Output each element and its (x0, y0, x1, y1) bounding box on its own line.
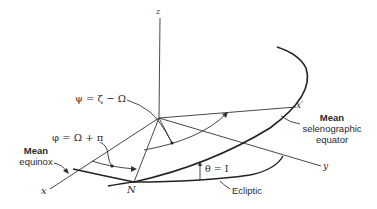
ecliptic-leader (220, 181, 230, 189)
psi-label: ψ = ζ − Ω (75, 94, 126, 104)
phi-arrowhead (131, 166, 137, 172)
mean-equinox-line-1: Mean (14, 145, 58, 156)
mean-equinox-arrowhead (63, 168, 69, 174)
z-axis (159, 18, 160, 118)
y-axis-label: y (323, 162, 328, 171)
phi-dot (110, 164, 113, 167)
x-prime-axis-label: x′ (296, 101, 303, 110)
mean-selenographic-equator-callout: Mean selenographic equator (296, 112, 368, 145)
mean-equinox-line-2: equinox (14, 156, 58, 167)
phi-arc (92, 161, 135, 169)
equator-line-3: equator (296, 134, 368, 145)
psi-leader (127, 100, 172, 143)
phi-leader (100, 142, 112, 166)
x-axis (50, 118, 159, 189)
equator-line-2: selenographic (296, 123, 368, 134)
ecliptic-curve (108, 156, 283, 186)
x-axis-label: x (41, 186, 47, 196)
mean-equinox-callout: Mean equinox (14, 145, 58, 167)
psi-dot (170, 141, 173, 144)
diagram-canvas (0, 0, 377, 209)
z-axis-label: z (156, 8, 160, 16)
theta-label: θ = I (205, 164, 228, 174)
phi-label: φ = Ω + π (52, 133, 103, 143)
ecliptic-callout: Ecliptic (232, 185, 262, 196)
selenographic-equator-curve (73, 47, 308, 182)
node-label: N (127, 185, 136, 195)
equator-line-1: Mean (296, 112, 368, 123)
